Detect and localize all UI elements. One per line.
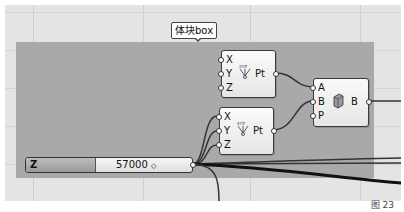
input-grip-x[interactable] [216,114,222,120]
input-y-label: Y [226,68,232,80]
input-grip-y[interactable] [216,128,222,134]
input-p-label: P [318,110,324,122]
input-b-label: B [318,96,325,108]
input-grip-a[interactable] [310,85,316,91]
figure-caption: 图 23 [371,198,394,211]
output-pt-label: Pt [255,68,265,80]
input-grip-p[interactable] [310,113,316,119]
box-icon [331,93,345,109]
box-2pt-node[interactable]: A B P B [313,78,369,127]
slider-value-text: 57000 [116,159,148,170]
output-grip-pt[interactable] [273,71,279,77]
construct-point-node-bottom[interactable]: X Y Z XYZ Pt [219,107,274,155]
output-b-label: B [351,96,358,108]
input-a-label: A [318,82,325,94]
input-grip-x[interactable] [218,57,224,63]
input-y-label: Y [224,125,230,137]
slider-name: Z coordinate [26,158,96,172]
input-x-label: X [224,111,231,123]
slider-handle-icon[interactable]: ◇ [151,162,156,170]
output-grip-pt[interactable] [271,128,277,134]
z-coordinate-slider[interactable]: Z coordinate 57000 ◇ [25,157,193,173]
slider-value: 57000 ◇ [116,158,156,173]
construct-point-node-top[interactable]: X Y Z XYZ Pt [221,50,276,98]
input-grip-y[interactable] [218,71,224,77]
construct-point-icon: XYZ [238,63,252,79]
input-z-label: Z [224,139,231,151]
input-grip-z[interactable] [218,85,224,91]
input-grip-b[interactable] [310,99,316,105]
output-pt-label: Pt [253,125,263,137]
slider-output-grip[interactable] [190,162,196,168]
input-z-label: Z [226,82,233,94]
construct-point-icon: XYZ [236,120,250,136]
svg-text:XYZ: XYZ [237,121,245,126]
output-grip-b[interactable] [366,99,372,105]
input-grip-z[interactable] [216,142,222,148]
input-x-label: X [226,54,233,66]
grasshopper-canvas[interactable]: 体块box X Y Z XYZ Pt [5,5,401,201]
svg-text:XYZ: XYZ [239,64,247,69]
